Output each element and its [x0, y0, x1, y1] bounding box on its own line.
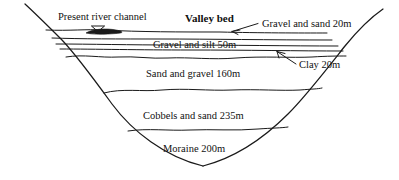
label-present-river-channel: Present river channel	[58, 11, 147, 22]
valley-outline-left-wall	[25, 4, 203, 166]
cross-section-drawing: Present river channel Valley bed Gravel …	[0, 0, 399, 180]
boundary-cobbels-sand-base	[128, 127, 288, 131]
label-moraine: Moraine 200m	[163, 143, 225, 154]
label-sand-and-gravel: Sand and gravel 160m	[146, 68, 240, 79]
label-clay: Clay 20m	[299, 59, 340, 70]
label-valley-bed: Valley bed	[185, 12, 234, 24]
geological-cross-section-diagram: Present river channel Valley bed Gravel …	[0, 0, 399, 180]
label-gravel-and-sand: Gravel and sand 20m	[262, 18, 352, 29]
label-cobbels-and-sand: Cobbels and sand 235m	[143, 110, 244, 121]
label-gravel-and-silt: Gravel and silt 50m	[153, 39, 236, 50]
boundary-sand-gravel-base	[104, 88, 322, 93]
